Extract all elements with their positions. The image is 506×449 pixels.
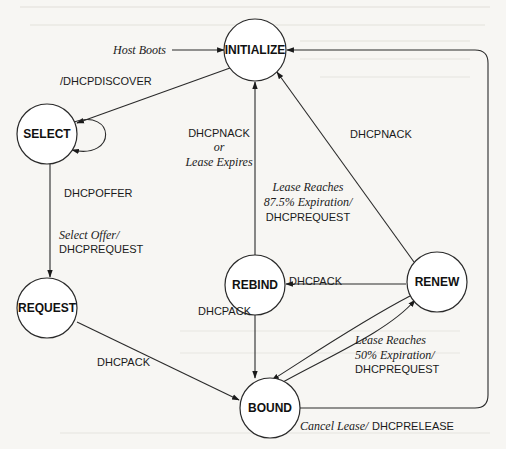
state-request: REQUEST	[17, 278, 77, 338]
label-rebind-dhcpack: DHCPACK	[198, 305, 252, 317]
label-rebind-nack: DHCPNACK	[188, 127, 250, 139]
label-bound-renew-3: DHCPREQUEST	[355, 363, 440, 375]
state-select-label: SELECT	[23, 127, 71, 141]
label-bound-renew-2: 50% Expiration/	[355, 348, 436, 362]
label-dhcprelease: DHCPRELEASE	[372, 420, 454, 432]
label-renew-rebind-2: 87.5% Expiration/	[264, 195, 354, 209]
label-renew-nack: DHCPNACK	[350, 128, 412, 140]
label-cancel-lease: Cancel Lease/	[300, 419, 370, 433]
label-select-request: DHCPREQUEST	[59, 243, 144, 255]
state-renew: RENEW	[407, 252, 467, 312]
state-renew-label: RENEW	[415, 275, 460, 289]
label-rebind-or: or	[214, 140, 225, 154]
label-renew-rebind-3: DHCPREQUEST	[266, 211, 351, 223]
label-dhcpoffer: DHCPOFFER	[64, 187, 133, 199]
label-select-offer: Select Offer/	[59, 228, 121, 242]
label-dhcpdiscover: /DHCPDISCOVER	[60, 75, 152, 87]
state-select: SELECT	[17, 104, 77, 164]
label-renew-rebind-1: Lease Reaches	[272, 180, 344, 194]
state-bound-label: BOUND	[248, 401, 292, 415]
state-initialize-label: INITIALIZE	[225, 43, 286, 57]
label-renew-dhcpack: DHCPACK	[289, 275, 343, 287]
state-rebind-label: REBIND	[232, 278, 278, 292]
edge-renew-initialize	[277, 72, 414, 262]
state-request-label: REQUEST	[18, 301, 77, 315]
label-bound-renew-1: Lease Reaches	[354, 333, 426, 347]
label-request-dhcpack: DHCPACK	[97, 356, 151, 368]
label-host-boots: Host Boots	[112, 43, 166, 57]
state-bound: BOUND	[240, 378, 300, 438]
state-initialize: INITIALIZE	[224, 19, 286, 81]
dhcp-state-diagram: INITIALIZE SELECT REQUEST REBIND RENEW B…	[0, 0, 506, 449]
label-rebind-lease-expires: Lease Expires	[184, 155, 253, 169]
